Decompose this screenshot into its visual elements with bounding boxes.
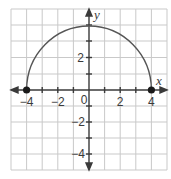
- closed-endpoint-left: [23, 86, 30, 93]
- y-tick-label: 2: [77, 51, 84, 65]
- x-axis-label: x: [155, 73, 162, 88]
- y-tick-label: −2: [71, 115, 85, 129]
- x-tick-label: 2: [117, 95, 124, 109]
- x-axis-left-arrow-icon: [11, 87, 18, 93]
- x-tick-label: 4: [148, 95, 155, 109]
- axes: [11, 9, 167, 170]
- closed-endpoint-right: [148, 86, 155, 93]
- y-axis-up-arrow-icon: [86, 9, 92, 16]
- y-tick-label: −4: [71, 147, 85, 161]
- y-axis-down-arrow-icon: [86, 163, 92, 170]
- origin-label: 0: [81, 93, 88, 107]
- x-tick-label: −4: [20, 95, 34, 109]
- y-axis-label: y: [92, 7, 100, 22]
- x-tick-label: −2: [51, 95, 65, 109]
- coordinate-plane: y x −4 −2 0 2 4 2 −2 −4: [0, 0, 171, 179]
